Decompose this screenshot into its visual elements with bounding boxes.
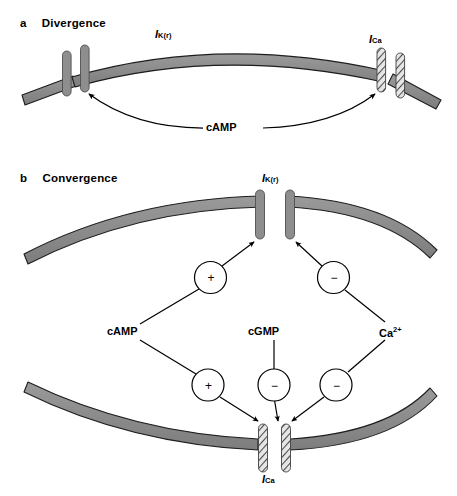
label-camp-panel-a: cAMP — [206, 121, 237, 133]
diagram-canvas — [0, 0, 457, 496]
label-ikr-panel-b: IK(r) — [262, 172, 278, 184]
sign-ca-minus-lower: − — [333, 379, 341, 393]
sign-camp-plus-upper: + — [207, 271, 215, 285]
sign-ca-minus-upper: − — [330, 271, 338, 285]
membrane-b-top-right — [288, 196, 437, 258]
label-ikr-panel-a-subscript: K(r) — [158, 31, 171, 40]
panel-a-group — [22, 45, 441, 128]
panel-a-letter: a — [20, 17, 26, 29]
channel-ikr-panel-b — [256, 190, 295, 239]
label-camp-panel-b: cAMP — [107, 325, 138, 337]
membrane-b-bottom-right — [290, 388, 437, 450]
label-ica-panel-b-subscript: Ca — [265, 476, 275, 485]
membrane-a-arch — [72, 54, 385, 87]
connector-camp-to-plus-lower — [140, 340, 196, 374]
figure-container: a Divergence IK(r) ICa cAMP b Convergenc… — [0, 0, 457, 496]
label-ikr-panel-b-subscript: K(r) — [265, 175, 278, 184]
connector-ca-to-minus-upper — [345, 290, 385, 322]
panel-b-letter: b — [20, 172, 27, 184]
label-cgmp-panel-b: cGMP — [248, 325, 279, 337]
label-ca2plus-panel-b: Ca2+ — [379, 325, 402, 339]
sign-camp-plus-lower: + — [205, 379, 213, 393]
panel-b-heading: b Convergence — [20, 168, 118, 186]
label-ica-panel-a-subscript: Ca — [372, 36, 382, 45]
channel-ikr-panel-a — [63, 45, 90, 96]
sign-cgmp-minus-lower: − — [271, 379, 279, 393]
panel-b-title: Convergence — [42, 172, 117, 184]
label-ica-panel-a: ICa — [369, 33, 382, 45]
panel-b-group — [24, 190, 437, 472]
panel-a-heading: a Divergence — [20, 13, 106, 31]
connector-plus-upper-to-ikr — [222, 242, 254, 266]
connector-camp-to-plus-upper — [140, 289, 199, 324]
label-ca2plus-base: Ca — [379, 327, 393, 339]
channel-ica-panel-a — [377, 48, 405, 98]
channel-ica-panel-b — [259, 424, 291, 472]
connector-minus-upper-to-ikr — [296, 242, 322, 266]
connector-ca-to-minus-lower — [348, 340, 385, 372]
connector-minus-lower-to-ica — [292, 397, 324, 421]
panel-a-title: Divergence — [42, 17, 106, 29]
label-ikr-panel-a: IK(r) — [155, 28, 171, 40]
membrane-b-top-left — [24, 196, 262, 264]
connector-plus-lower-to-ica — [220, 397, 258, 421]
label-ica-panel-b: ICa — [262, 473, 275, 485]
label-ca2plus-superscript: 2+ — [393, 325, 402, 334]
